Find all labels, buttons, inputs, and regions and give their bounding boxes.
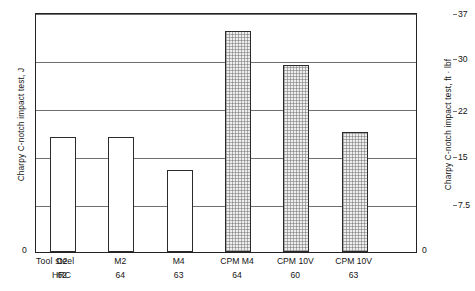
bar-cpm-10v-hrc-60 xyxy=(283,65,309,252)
y-tick-mark-right xyxy=(453,14,457,15)
plot-area: 10203040507.515223037 xyxy=(35,13,417,253)
plot-inner: 10203040507.515223037 xyxy=(36,14,416,252)
y-tick-mark-right xyxy=(453,111,457,112)
y-axis-title-left: Charpy C-notch impact test, J xyxy=(17,40,26,210)
bar-m4-hrc-63 xyxy=(167,170,193,252)
bar-m2-hrc-64 xyxy=(108,137,134,252)
category-label-5: CPM 10V xyxy=(314,256,394,266)
bar-d2-hrc-62 xyxy=(50,137,76,252)
y-tick-mark-right xyxy=(453,59,457,60)
hrc-value-5: 63 xyxy=(314,270,394,280)
y-tick-label-right-7.5: 7.5 xyxy=(458,200,475,210)
y-tick-mark-right xyxy=(453,157,457,158)
y-tick-label-right-22: 22 xyxy=(458,106,475,116)
y-tick-label-right-30: 30 xyxy=(458,54,475,64)
y-tick-mark-right xyxy=(453,205,457,206)
bar-cpm-m4-hrc-64 xyxy=(225,31,251,252)
gridline xyxy=(36,14,416,15)
y-tick-label-right-15: 15 xyxy=(458,152,475,162)
category-table: Tool steel HRC D262M264M463CPM M464CPM 1… xyxy=(0,254,460,291)
bar-cpm-10v-hrc-63 xyxy=(342,132,368,252)
y-axis-title-right: Charpy C-notch impact test, ft · lbf xyxy=(444,40,453,210)
y-tick-label-right-37: 37 xyxy=(458,9,475,19)
